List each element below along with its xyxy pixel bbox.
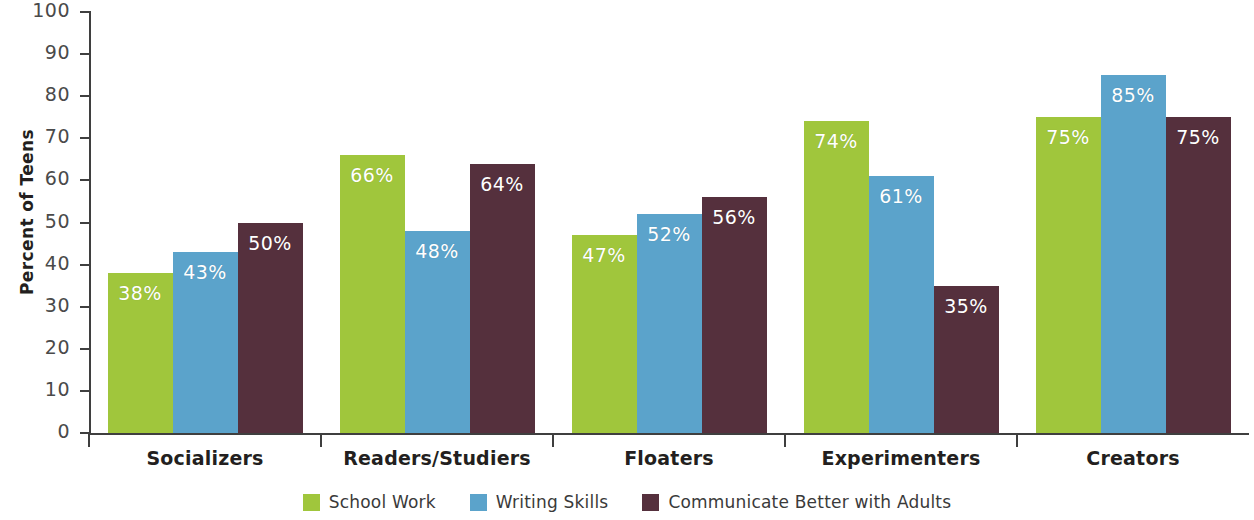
bar[interactable]: 56%	[702, 197, 767, 433]
y-axis-tick-label: 10	[10, 378, 70, 400]
bar-value-label: 50%	[238, 232, 303, 254]
y-axis-tick-label: 30	[10, 294, 70, 316]
bar[interactable]: 85%	[1101, 75, 1166, 433]
legend-item-label: School Work	[329, 492, 436, 512]
bar[interactable]: 75%	[1036, 117, 1101, 433]
bar[interactable]: 61%	[869, 176, 934, 433]
bar-value-label: 38%	[108, 282, 173, 304]
bar[interactable]: 38%	[108, 273, 173, 433]
x-axis-line	[89, 433, 1249, 435]
legend-swatch-icon	[303, 494, 320, 511]
bar[interactable]: 35%	[934, 286, 999, 433]
legend-swatch-icon	[470, 494, 487, 511]
bar[interactable]: 66%	[340, 155, 405, 433]
y-axis-tick	[80, 306, 90, 308]
bar[interactable]: 52%	[637, 214, 702, 433]
x-axis-separator-tick	[784, 433, 786, 447]
bar-value-label: 85%	[1101, 84, 1166, 106]
y-axis-tick-label: 90	[10, 41, 70, 63]
bar-value-label: 43%	[173, 261, 238, 283]
y-axis-tick	[80, 95, 90, 97]
chart-legend: School WorkWriting SkillsCommunicate Bet…	[0, 492, 1254, 512]
x-axis-group-label: Socializers	[89, 447, 321, 469]
bar-value-label: 47%	[572, 244, 637, 266]
bar-value-label: 66%	[340, 164, 405, 186]
y-axis-tick-label: 80	[10, 83, 70, 105]
bar-value-label: 74%	[804, 130, 869, 152]
legend-item-label: Writing Skills	[496, 492, 609, 512]
x-axis-group-label: Readers/Studiers	[321, 447, 553, 469]
x-axis-group-label: Creators	[1017, 447, 1249, 469]
y-axis-tick-label: 40	[10, 252, 70, 274]
bar[interactable]: 74%	[804, 121, 869, 433]
y-axis-tick	[80, 348, 90, 350]
x-axis-separator-tick	[552, 433, 554, 447]
y-axis-tick	[80, 137, 90, 139]
y-axis-tick	[80, 390, 90, 392]
bar-value-label: 35%	[934, 295, 999, 317]
x-axis-group-label: Experimenters	[785, 447, 1017, 469]
bar[interactable]: 43%	[173, 252, 238, 433]
y-axis-tick-label: 60	[10, 167, 70, 189]
x-axis-origin-tick	[88, 433, 90, 447]
y-axis-tick-label: 0	[10, 420, 70, 442]
y-axis-tick-label: 20	[10, 336, 70, 358]
bar-value-label: 75%	[1036, 126, 1101, 148]
x-axis-group-label: Floaters	[553, 447, 785, 469]
legend-swatch-icon	[642, 494, 659, 511]
legend-item[interactable]: Communicate Better with Adults	[642, 492, 951, 512]
y-axis-tick-label: 70	[10, 125, 70, 147]
bar-value-label: 48%	[405, 240, 470, 262]
legend-item[interactable]: School Work	[303, 492, 436, 512]
bar[interactable]: 48%	[405, 231, 470, 433]
bar-chart: Percent of Teens 1009080706050403020100 …	[0, 0, 1254, 520]
legend-item[interactable]: Writing Skills	[470, 492, 609, 512]
x-axis-separator-tick	[1016, 433, 1018, 447]
bar-value-label: 56%	[702, 206, 767, 228]
bar-value-label: 75%	[1166, 126, 1231, 148]
legend-item-label: Communicate Better with Adults	[668, 492, 951, 512]
y-axis-tick	[80, 53, 90, 55]
bar[interactable]: 64%	[470, 164, 535, 433]
bar-value-label: 64%	[470, 173, 535, 195]
bar-value-label: 52%	[637, 223, 702, 245]
y-axis-tick	[80, 222, 90, 224]
bar[interactable]: 47%	[572, 235, 637, 433]
x-axis-separator-tick	[320, 433, 322, 447]
bar[interactable]: 50%	[238, 223, 303, 434]
bar-value-label: 61%	[869, 185, 934, 207]
y-axis-tick-label: 100	[10, 0, 70, 21]
bar[interactable]: 75%	[1166, 117, 1231, 433]
y-axis-tick-label: 50	[10, 210, 70, 232]
y-axis-tick	[80, 11, 90, 13]
y-axis-tick	[80, 179, 90, 181]
y-axis-tick	[80, 264, 90, 266]
